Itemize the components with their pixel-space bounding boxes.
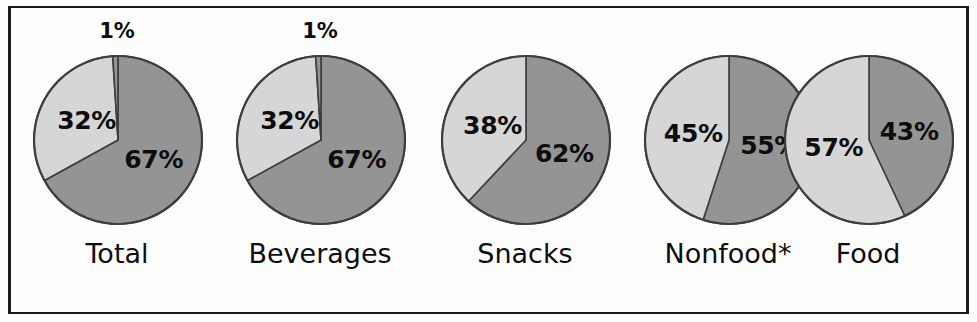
pie-chart-figure: 67%32%1%Total67%32%1%Beverages62%38%Snac… (0, 0, 977, 322)
pie-category-label: Snacks (421, 240, 629, 267)
pie-chart-row: 67%32%1%Total67%32%1%Beverages62%38%Snac… (11, 8, 966, 312)
slice-percent-dark: 67% (124, 147, 183, 172)
slice-percent-dark: 62% (535, 141, 594, 166)
pie-graphic (236, 55, 406, 225)
pie-category-label: Food (764, 240, 972, 267)
pie-graphic (33, 55, 203, 225)
slice-percent-light: 32% (57, 108, 116, 133)
slice-percent-light: 45% (664, 121, 723, 146)
slice-percent-light: 57% (804, 135, 863, 160)
figure-border-bottom (8, 312, 969, 314)
pie-category-label: Total (13, 240, 221, 267)
pie-chart-total[interactable]: 67%32%1%Total (13, 8, 221, 312)
slice-percent-light: 32% (260, 108, 319, 133)
pie-chart-snacks[interactable]: 62%38%Snacks (421, 8, 629, 312)
slice-callout-sliver: 1% (302, 21, 338, 42)
pie-category-label: Beverages (216, 240, 424, 267)
pie-chart-food[interactable]: 43%57%Food (764, 8, 972, 312)
slice-percent-light: 38% (463, 113, 522, 138)
slice-callout-sliver: 1% (99, 21, 135, 42)
slice-percent-dark: 67% (327, 147, 386, 172)
slice-percent-dark: 43% (880, 119, 939, 144)
pie-chart-beverages[interactable]: 67%32%1%Beverages (216, 8, 424, 312)
